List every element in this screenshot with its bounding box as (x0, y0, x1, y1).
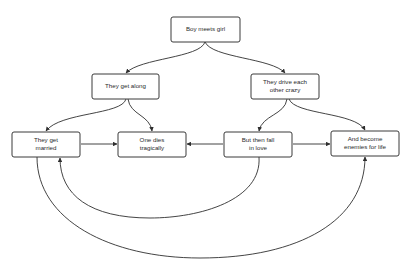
node-they-drive-each-other-crazy: They drive eachother crazy (251, 74, 319, 99)
edge-they-get-married-to-and-become-enemies-for-life (37, 157, 365, 258)
node-one-dies-tragically: One diestragically (118, 132, 186, 157)
node-label: Boy meets girl (186, 25, 225, 32)
edge-but-then-fall-in-love-to-they-get-married (60, 157, 259, 218)
node-they-get-along: They get along (92, 74, 159, 99)
node-label: married (36, 144, 58, 151)
edge-boy-meets-girl-to-they-drive-each-other-crazy (205, 42, 285, 73)
edge-boy-meets-girl-to-they-get-along (126, 42, 205, 73)
node-label: One dies (140, 136, 165, 143)
edge-they-get-along-to-they-get-married (46, 99, 126, 131)
story-flowchart: Boy meets girlThey get alongThey drive e… (0, 0, 411, 269)
node-label: in love (249, 144, 267, 151)
node-and-become-enemies-for-life: And becomeenemies for life (331, 131, 399, 156)
node-label: And become (348, 135, 383, 142)
edge-they-drive-each-other-crazy-to-but-then-fall-in-love (259, 99, 287, 131)
nodes-layer: Boy meets girlThey get alongThey drive e… (12, 17, 399, 157)
edge-they-drive-each-other-crazy-to-and-become-enemies-for-life (289, 99, 365, 130)
node-but-then-fall-in-love: But then fallin love (224, 132, 292, 157)
edge-they-get-along-to-one-dies-tragically (128, 99, 152, 131)
node-label: enemies for life (344, 143, 387, 150)
node-label: other crazy (270, 86, 302, 93)
node-boy-meets-girl: Boy meets girl (171, 17, 240, 42)
node-label: But then fall (242, 136, 275, 143)
node-they-get-married: They getmarried (12, 132, 80, 157)
node-label: They get (34, 136, 58, 143)
node-label: They get along (105, 82, 146, 89)
node-label: They drive each (263, 78, 308, 85)
node-label: tragically (140, 144, 165, 151)
